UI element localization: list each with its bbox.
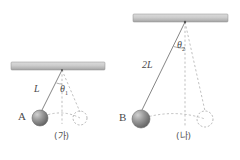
ball-label-a: A <box>18 111 26 122</box>
pivot-point-b <box>184 21 186 23</box>
ball-label-b: B <box>119 112 126 123</box>
string-length-label-b: 2L <box>142 60 153 70</box>
angle-subscript-a: 1 <box>65 90 68 96</box>
rest-string-b <box>185 22 205 111</box>
ball-a <box>32 110 48 126</box>
ball-b <box>132 110 150 128</box>
panel-caption-b: (나) <box>176 132 191 141</box>
pendulum-figure: L θ1 A (가) 2L θ2 B (나) <box>0 0 240 160</box>
ceiling-bar-a <box>11 62 105 70</box>
angle-label-b: θ2 <box>177 40 185 52</box>
swing-arc-b <box>141 114 205 119</box>
pivot-point-a <box>61 69 63 71</box>
panel-caption-a: (가) <box>54 132 69 141</box>
rest-position-circle-b <box>197 111 213 127</box>
string-length-label-a: L <box>34 84 40 94</box>
panel-b-group <box>132 14 228 128</box>
ceiling-bar-b <box>133 14 228 22</box>
angle-subscript-b: 2 <box>182 46 185 52</box>
pendulum-diagram-canvas <box>0 0 240 160</box>
angle-label-a: θ1 <box>60 84 68 96</box>
pendulum-string-a <box>41 70 62 112</box>
